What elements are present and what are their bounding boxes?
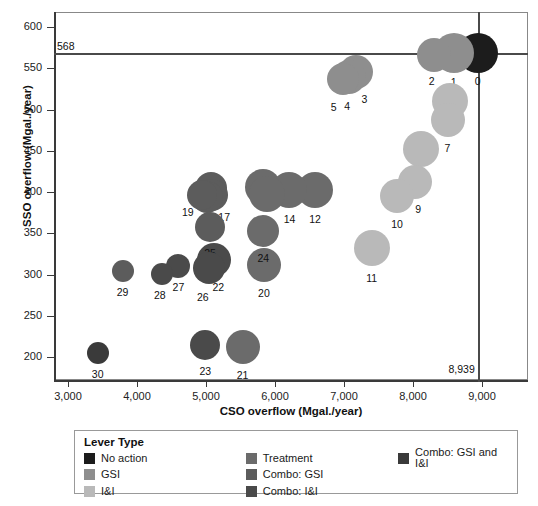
y-tick-label-600: 600 — [0, 21, 42, 32]
y-tick-300 — [47, 275, 55, 276]
legend-column-1: No actionGSII&I — [84, 451, 246, 498]
data-point-11[interactable] — [354, 230, 390, 266]
x-tick-label-3000: 3,000 — [38, 390, 98, 402]
data-point-25[interactable] — [195, 212, 225, 242]
legend-label: Combo: GSI — [263, 469, 324, 480]
x-tick-7000 — [344, 381, 345, 387]
legend-label: Combo: I&I — [263, 486, 318, 497]
legend-item-treatment[interactable]: Treatment — [246, 451, 398, 465]
y-tick-500 — [47, 110, 55, 111]
y-tick-250 — [47, 316, 55, 317]
legend-swatch-icon — [246, 469, 257, 480]
legend-swatch-icon — [398, 453, 409, 464]
x-tick-label-9000: 9,000 — [452, 390, 512, 402]
legend-label: GSI — [101, 469, 120, 480]
legend-label: Treatment — [263, 453, 313, 464]
y-tick-200 — [47, 357, 55, 358]
data-point-2[interactable] — [417, 38, 451, 72]
legend-item-i-i[interactable]: I&I — [84, 484, 246, 498]
x-axis-line — [54, 380, 528, 382]
legend-swatch-icon — [246, 453, 257, 464]
legend-label: No action — [101, 453, 147, 464]
x-tick-4000 — [137, 381, 138, 387]
legend-item-combo-gsi[interactable]: Combo: GSI — [246, 468, 398, 482]
x-tick-label-5000: 5,000 — [176, 390, 236, 402]
data-point-label-30: 30 — [78, 368, 118, 380]
x-tick-label-4000: 4,000 — [107, 390, 167, 402]
scatter-chart: 200250300350400450500550600 3,0004,0005,… — [0, 0, 538, 420]
reference-line-label-568: 568 — [57, 40, 75, 52]
legend-swatch-icon — [84, 453, 95, 464]
data-point-label-10: 10 — [377, 218, 417, 230]
data-point-15[interactable] — [249, 176, 285, 212]
data-point-label-11: 11 — [352, 272, 392, 284]
data-point-label-5: 5 — [314, 101, 354, 113]
y-tick-label-250: 250 — [0, 310, 42, 321]
x-tick-label-7000: 7,000 — [314, 390, 374, 402]
data-point-10[interactable] — [380, 179, 414, 213]
data-point-label-20: 20 — [244, 287, 284, 299]
y-axis-title: SSO overflow (Mgal./year) — [21, 41, 33, 271]
data-point-label-24: 24 — [243, 252, 283, 264]
legend-label: Combo: GSI and I&I — [415, 447, 508, 469]
data-point-5[interactable] — [327, 63, 359, 95]
x-tick-5000 — [206, 381, 207, 387]
legend: Lever Type No actionGSII&ITreatmentCombo… — [74, 430, 518, 494]
x-tick-label-6000: 6,000 — [245, 390, 305, 402]
data-point-30[interactable] — [87, 342, 109, 364]
data-point-label-23: 23 — [185, 365, 225, 377]
data-point-21[interactable] — [226, 330, 260, 364]
legend-swatch-icon — [246, 486, 257, 497]
reference-line-label-8939: 8,939 — [432, 363, 475, 375]
legend-label: I&I — [101, 486, 114, 497]
data-point-7[interactable] — [431, 103, 465, 137]
y-tick-label-200: 200 — [0, 351, 42, 362]
data-point-label-21: 21 — [223, 369, 263, 381]
legend-swatch-icon — [84, 469, 95, 480]
legend-column-3: Combo: GSI and I&I — [398, 451, 508, 498]
data-point-label-29: 29 — [103, 286, 143, 298]
x-tick-9000 — [482, 381, 483, 387]
y-tick-350 — [47, 233, 55, 234]
x-tick-label-8000: 8,000 — [383, 390, 443, 402]
data-point-label-28: 28 — [140, 289, 180, 301]
legend-column-2: TreatmentCombo: GSICombo: I&I — [246, 451, 398, 498]
data-point-29[interactable] — [112, 260, 134, 282]
y-tick-400 — [47, 192, 55, 193]
data-point-23[interactable] — [190, 330, 220, 360]
legend-item-combo-gsi-and-i-i[interactable]: Combo: GSI and I&I — [398, 451, 508, 465]
legend-item-combo-i-i[interactable]: Combo: I&I — [246, 484, 398, 498]
x-tick-3000 — [68, 381, 69, 387]
y-tick-450 — [47, 151, 55, 152]
legend-item-no-action[interactable]: No action — [84, 451, 246, 465]
x-axis-title: CSO overflow (Mgal./year) — [54, 405, 528, 417]
x-tick-8000 — [413, 381, 414, 387]
legend-item-gsi[interactable]: GSI — [84, 468, 246, 482]
y-tick-600 — [47, 27, 55, 28]
x-tick-6000 — [275, 381, 276, 387]
data-point-28[interactable] — [151, 263, 173, 285]
legend-columns: No actionGSII&ITreatmentCombo: GSICombo:… — [84, 451, 508, 498]
data-point-24[interactable] — [247, 215, 279, 247]
legend-swatch-icon — [84, 486, 95, 497]
data-point-26[interactable] — [193, 252, 225, 284]
y-tick-550 — [47, 68, 55, 69]
